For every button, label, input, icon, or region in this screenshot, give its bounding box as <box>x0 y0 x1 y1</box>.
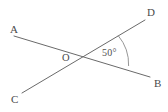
geometry-figure <box>0 0 168 112</box>
angle-measure-label: 50° <box>102 48 117 58</box>
line-cd <box>22 20 145 93</box>
point-label-b: B <box>154 78 162 89</box>
point-label-a: A <box>10 24 18 35</box>
point-label-c: C <box>11 94 19 105</box>
diagram-canvas: A B C D O 50° <box>0 0 168 112</box>
point-label-d: D <box>147 7 155 18</box>
point-label-o: O <box>62 53 70 64</box>
angle-arc <box>118 36 128 66</box>
line-ab <box>14 36 150 77</box>
